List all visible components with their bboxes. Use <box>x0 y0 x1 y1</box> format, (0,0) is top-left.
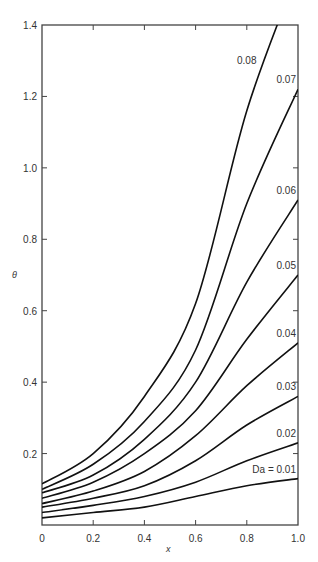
axis-ticks <box>42 25 298 525</box>
x-tick-label: 1.0 <box>291 533 305 544</box>
curve-label: 0.06 <box>277 185 297 196</box>
curve-da-0.07 <box>42 89 298 489</box>
curve-label: 0.08 <box>237 55 257 66</box>
curve-da-0.08 <box>42 0 298 484</box>
curve-label: 0.05 <box>277 260 297 271</box>
curve-label: 0.04 <box>277 328 297 339</box>
curve-label: 0.07 <box>277 74 297 85</box>
x-tick-label: 0.6 <box>189 533 203 544</box>
curve-da-0.04 <box>42 343 298 504</box>
x-axis-label: x <box>165 544 171 554</box>
curve-label: 0.02 <box>277 428 297 439</box>
x-tick-label: 0 <box>39 533 45 544</box>
x-tick-label: 0.2 <box>86 533 100 544</box>
chart: 00.20.40.60.81.00.20.40.60.81.01.21.4 Da… <box>0 0 318 562</box>
curve-label: Da = 0.01 <box>252 464 296 475</box>
curve-label: 0.03 <box>277 381 297 392</box>
y-tick-label: 1.4 <box>23 20 37 31</box>
y-tick-label: 0.6 <box>23 306 37 317</box>
y-tick-label: 1.0 <box>23 163 37 174</box>
y-axis-label: θ <box>12 270 17 280</box>
y-tick-label: 0.2 <box>23 449 37 460</box>
curve-da-Da = 0.01 <box>42 479 298 518</box>
x-tick-label: 0.4 <box>137 533 151 544</box>
y-tick-label: 1.2 <box>23 91 37 102</box>
plot-frame <box>42 25 298 525</box>
y-tick-label: 0.4 <box>23 377 37 388</box>
curves <box>42 0 298 518</box>
curve-da-0.06 <box>42 200 298 493</box>
y-tick-label: 0.8 <box>23 234 37 245</box>
curve-labels: Da = 0.010.020.030.040.050.060.070.08 <box>237 55 296 475</box>
x-tick-label: 0.8 <box>240 533 254 544</box>
